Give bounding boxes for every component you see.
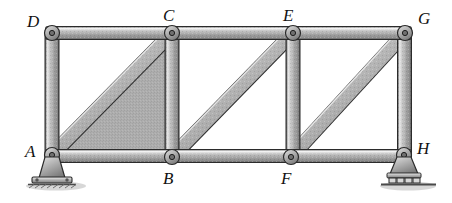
joint-label-B: B <box>163 170 173 187</box>
joint-label-G: G <box>418 10 430 27</box>
truss-diagram: D C E G A B F H <box>0 0 452 203</box>
joint-B <box>165 150 180 165</box>
joint-label-H: H <box>417 140 429 157</box>
vertical-H-G <box>397 31 412 159</box>
diagonal-B-E <box>168 29 294 158</box>
vertical-B-C <box>165 31 180 161</box>
roller-wheels <box>389 178 420 183</box>
joint-G <box>398 26 413 41</box>
joint-C <box>165 26 180 41</box>
joint-label-A: A <box>25 143 35 160</box>
vertical-F-E <box>286 31 301 161</box>
joint-label-D: D <box>27 13 39 30</box>
top-chord <box>45 26 412 40</box>
joint-label-F: F <box>281 170 291 187</box>
joint-label-C: C <box>163 7 174 24</box>
vertical-A-D <box>45 31 60 159</box>
bottom-chord <box>45 149 412 163</box>
truss-drawing-canvas <box>0 0 452 203</box>
joint-D <box>45 26 60 41</box>
diagonal-F-G <box>287 29 406 158</box>
joint-F <box>284 150 299 165</box>
joint-label-E: E <box>283 7 293 24</box>
joint-E <box>286 26 301 41</box>
